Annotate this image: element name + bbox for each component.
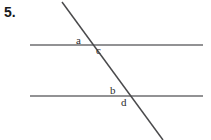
transversal-line [62,2,163,140]
geometry-figure: 5. a c b d [0,0,211,140]
angle-label-a: a [76,35,81,46]
angle-label-d: d [121,97,127,108]
parallel-lines-transversal-diagram [0,0,211,140]
angle-label-b: b [110,85,116,96]
angle-label-c: c [96,45,101,56]
